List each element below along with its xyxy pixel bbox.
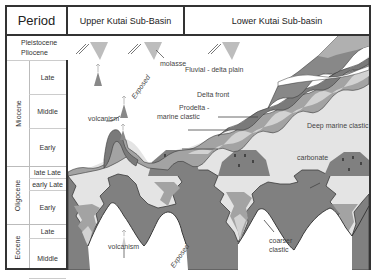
label-molasse: molasse [160,60,186,67]
volcano-icon [94,64,102,86]
stratigraphic-chart: Period Upper Kutai Sub-Basin Lower Kutai… [5,5,371,270]
label-prodelta: Prodelta - [179,104,209,111]
sub-eocene-late: Late [29,224,66,238]
label-delta-front: Delta front [197,91,229,98]
sub-oligocene-early-late: early Late [29,178,66,190]
sub-eocene-middle: Middle [29,238,66,278]
volcano-icon [120,96,128,118]
header-period: Period [7,7,68,36]
label-pleistocene: Pleistocene [9,38,66,48]
label-carbonate: carbonate [297,154,328,161]
sub-oligocene-early: Early [29,190,66,224]
label-volcanism-upper: volcanism [88,115,119,122]
label-marine-clastic: marine clastic [157,113,200,120]
label-deep-marine-clastic: Deep marine clastic [307,122,368,129]
label-fluvial-delta-plain: Fluvial - delta plain [185,66,243,73]
label-volcanism-lower: volcanism [108,243,139,250]
label-coarser: coarser [269,237,292,244]
sub-oligocene-late-late: late Late [29,166,66,178]
label-pliocene: Pliocene [9,48,66,58]
epoch-oligocene: Oligocene [7,166,29,224]
sub-miocene-early: Early [29,128,66,166]
header-upper-kutai: Upper Kutai Sub-Basin [68,7,185,36]
sub-miocene-middle: Middle [29,94,66,128]
label-clastic: clastic [269,246,288,253]
epoch-miocene: Miocene [7,60,29,166]
epoch-eocene: Eocene [7,224,29,270]
volcano-icon [120,124,126,140]
header-lower-kutai: Lower Kutai Sub-basin [185,7,369,36]
sub-miocene-late: Late [29,60,66,94]
